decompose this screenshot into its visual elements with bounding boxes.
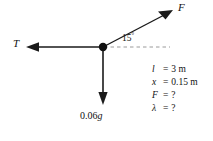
given-symbol: x bbox=[152, 78, 160, 88]
given-quantities-list: l = 3 m x = 0.15 m F = ? λ = ? bbox=[152, 65, 213, 114]
given-equals: = bbox=[160, 91, 171, 101]
given-value: 3 m bbox=[171, 65, 186, 75]
given-row: λ = ? bbox=[152, 104, 213, 114]
given-equals: = bbox=[160, 78, 171, 88]
given-equals: = bbox=[160, 65, 171, 75]
weight-vector-label: 0.06g bbox=[80, 111, 103, 121]
given-row: l = 3 m bbox=[152, 65, 213, 75]
applied-force-vector-label: F bbox=[178, 2, 185, 13]
gravity-symbol: g bbox=[98, 110, 103, 121]
weight-value-text: 0.06 bbox=[80, 110, 98, 121]
degree-symbol: ° bbox=[132, 31, 135, 38]
given-symbol: l bbox=[152, 65, 160, 75]
given-equals: = bbox=[160, 104, 171, 114]
given-value: 0.15 m bbox=[171, 78, 197, 88]
tension-vector-label: T bbox=[13, 38, 19, 49]
given-row: F = ? bbox=[152, 91, 213, 101]
given-symbol: λ bbox=[152, 104, 160, 114]
given-value: ? bbox=[171, 104, 175, 114]
applied-force-vector-shaft bbox=[103, 13, 168, 47]
junction-node-dot bbox=[99, 43, 107, 51]
given-symbol: F bbox=[152, 91, 160, 101]
physics-diagram-figure: T F 0.06g 15° l = 3 m x = 0.15 m F = ? λ… bbox=[0, 0, 213, 141]
weight-arrowhead bbox=[98, 92, 107, 105]
angle-value: 15 bbox=[122, 33, 132, 43]
tension-arrowhead bbox=[26, 42, 39, 52]
applied-force-arrowhead bbox=[158, 10, 173, 20]
given-row: x = 0.15 m bbox=[152, 78, 213, 88]
angle-measure-label: 15° bbox=[122, 32, 134, 44]
given-value: ? bbox=[171, 91, 175, 101]
